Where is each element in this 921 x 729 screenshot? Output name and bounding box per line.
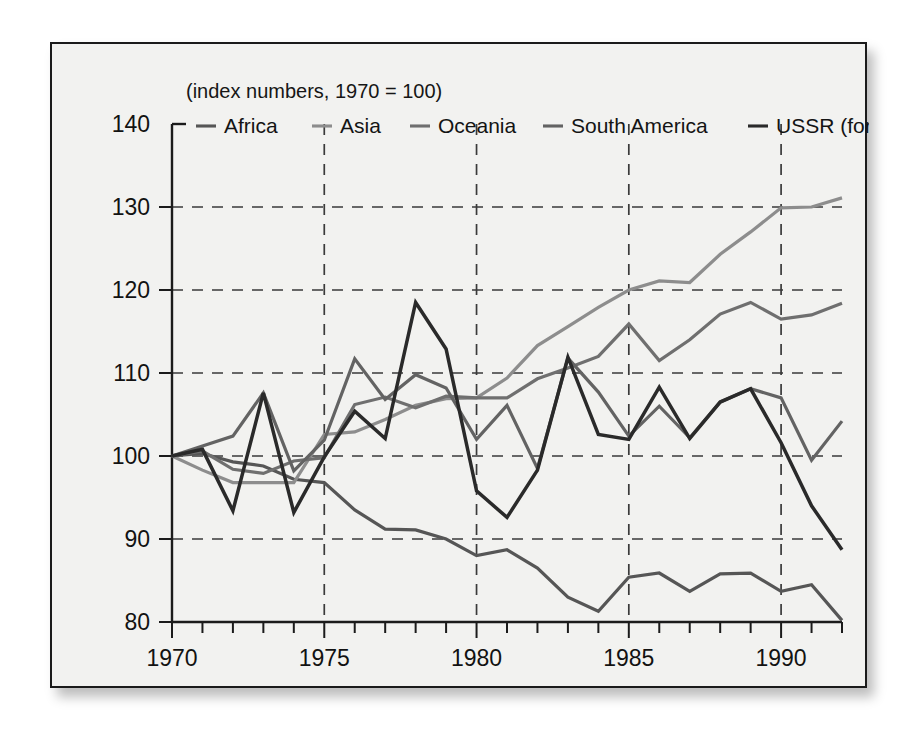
legend-label-asia: Asia	[340, 114, 381, 137]
y-axis-tick-labels: 8090100110120130140	[112, 111, 150, 635]
y-tick-label: 140	[112, 111, 150, 137]
x-tick-label: 1970	[146, 645, 197, 671]
series-line-south-america	[172, 358, 842, 471]
legend-label-africa: Africa	[224, 114, 278, 137]
x-tick-label: 1980	[451, 645, 502, 671]
legend-label-south-america: South America	[571, 114, 708, 137]
x-tick-label: 1985	[603, 645, 654, 671]
legend-label-ussr-former: USSR (former)	[776, 114, 869, 137]
x-axis-tick-labels: 19701975198019851990	[146, 645, 806, 671]
y-tick-label: 100	[112, 443, 150, 469]
y-tick-label: 120	[112, 277, 150, 303]
chart-legend: AfricaAsiaOceaniaSouth AmericaUSSR (form…	[196, 114, 869, 137]
x-tick-label: 1990	[756, 645, 807, 671]
chart-subtitle: (index numbers, 1970 = 100)	[186, 80, 442, 102]
x-tick-label: 1975	[299, 645, 350, 671]
figure-card: 8090100110120130140 19701975198019851990…	[50, 42, 867, 688]
legend-label-oceania: Oceania	[438, 114, 517, 137]
gridlines	[172, 124, 842, 622]
subtitle-label: (index numbers, 1970 = 100)	[186, 80, 442, 102]
y-tick-label: 110	[113, 360, 150, 386]
y-tick-label: 80	[124, 609, 150, 635]
series-line-ussr-former	[172, 302, 842, 549]
y-tick-label: 130	[112, 194, 150, 220]
series-line-africa	[172, 454, 842, 621]
plot-area: 8090100110120130140 19701975198019851990…	[52, 44, 865, 686]
series-line-asia	[172, 198, 842, 483]
data-series-group	[172, 198, 842, 620]
series-line-oceania	[172, 302, 842, 473]
line-chart: 8090100110120130140 19701975198019851990…	[52, 44, 869, 690]
y-tick-label: 90	[124, 526, 150, 552]
